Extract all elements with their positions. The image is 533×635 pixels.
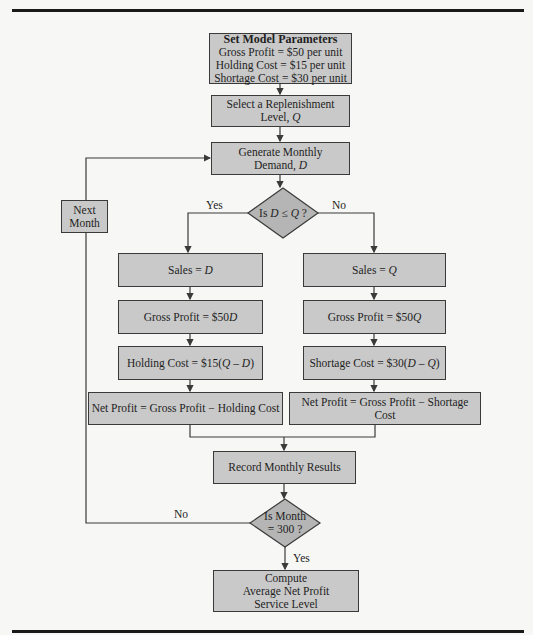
shortage-prefix: Shortage Cost = $30( — [309, 357, 407, 369]
arrow-yes-branch — [188, 213, 248, 252]
shortage-text: Shortage Cost = $30(D – Q) — [309, 357, 439, 370]
net-shortage-text: Net Profit = Gross Profit − Shortage Cos… — [290, 396, 480, 422]
holding-prefix: Holding Cost = $15( — [127, 357, 222, 369]
gross-q-text: Gross Profit = $50Q — [328, 311, 422, 324]
node-holding-cost: Holding Cost = $15(Q – D) — [118, 346, 263, 380]
loop-back-upper — [86, 158, 210, 200]
sales-q-prefix: Sales = — [352, 264, 389, 276]
net-holding-text: Net Profit = Gross Profit − Holding Cost — [92, 402, 280, 415]
node-next-month: Next Month — [61, 200, 108, 233]
params-gross-profit: Gross Profit = $50 per unit — [219, 46, 343, 59]
generate-line2: Demand, D — [254, 159, 307, 172]
node-record-results: Record Monthly Results — [213, 451, 356, 484]
arrow-no-branch — [318, 213, 374, 252]
select-line2-prefix: Level, — [260, 111, 292, 123]
gross-d-prefix: Gross Profit = $50 — [144, 311, 229, 323]
month-line2: = 300 ? — [268, 523, 303, 536]
var-q: Q — [292, 111, 300, 123]
shortage-suffix: ) — [436, 357, 440, 369]
dq-var-d: D — [270, 207, 278, 219]
edge-label-dq-no: No — [332, 199, 346, 211]
compute-line2: Average Net Profit — [243, 585, 330, 598]
params-title: Set Model Parameters — [224, 33, 338, 46]
shortage-expr: D – Q — [408, 357, 436, 369]
dq-var-q: Q — [291, 207, 299, 219]
edge-label-month-yes: Yes — [293, 552, 310, 564]
edge-label-dq-yes: Yes — [206, 199, 223, 211]
dq-prefix: Is — [259, 207, 270, 219]
sales-d-var: D — [205, 264, 213, 276]
select-line2: Level, Q — [260, 111, 300, 124]
var-d: D — [299, 159, 307, 171]
gross-q-var: Q — [413, 311, 421, 323]
compute-line1: Compute — [265, 572, 307, 585]
decision-month-label: Is Month = 300 ? — [250, 509, 320, 537]
node-generate-demand: Generate Monthly Demand, D — [211, 142, 350, 175]
sales-q-text: Sales = Q — [352, 264, 397, 277]
generate-line2-prefix: Demand, — [254, 159, 299, 171]
dq-op: ≤ — [279, 207, 291, 219]
node-shortage-cost: Shortage Cost = $30(D – Q) — [303, 346, 446, 380]
month-line1: Is Month — [264, 510, 306, 523]
params-shortage-cost: Shortage Cost = $30 per unit — [214, 72, 347, 85]
node-gross-profit-q: Gross Profit = $50Q — [303, 300, 446, 334]
gross-d-var: D — [229, 311, 237, 323]
node-net-profit-holding: Net Profit = Gross Profit − Holding Cost — [88, 392, 283, 425]
holding-expr: Q – D — [222, 357, 250, 369]
generate-line1: Generate Monthly — [239, 146, 323, 159]
node-set-model-parameters: Set Model Parameters Gross Profit = $50 … — [209, 33, 352, 84]
gross-q-prefix: Gross Profit = $50 — [328, 311, 413, 323]
next-month-line2: Month — [69, 217, 100, 230]
next-month-line1: Next — [73, 204, 95, 217]
node-select-replenishment: Select a Replenishment Level, Q — [211, 95, 350, 127]
edge-label-month-no: No — [174, 508, 188, 520]
node-gross-profit-d: Gross Profit = $50D — [118, 300, 263, 334]
holding-suffix: ) — [250, 357, 254, 369]
merge-line — [190, 424, 375, 437]
sales-q-var: Q — [389, 264, 397, 276]
record-text: Record Monthly Results — [228, 461, 340, 474]
decision-d-le-q-text: Is D ≤ Q ? — [259, 207, 307, 220]
decision-d-le-q-label: Is D ≤ Q ? — [248, 205, 318, 221]
dq-suffix: ? — [299, 207, 307, 219]
sales-d-text: Sales = D — [168, 264, 213, 277]
holding-text: Holding Cost = $15(Q – D) — [127, 357, 254, 370]
node-sales-d: Sales = D — [118, 253, 263, 287]
node-compute-results: Compute Average Net Profit Service Level — [213, 570, 359, 612]
params-holding-cost: Holding Cost = $15 per unit — [216, 59, 345, 72]
node-sales-q: Sales = Q — [303, 253, 446, 287]
sales-d-prefix: Sales = — [168, 264, 205, 276]
gross-d-text: Gross Profit = $50D — [144, 311, 238, 324]
compute-line3: Service Level — [254, 598, 318, 611]
node-net-profit-shortage: Net Profit = Gross Profit − Shortage Cos… — [289, 392, 481, 425]
select-line1: Select a Replenishment — [227, 98, 335, 111]
